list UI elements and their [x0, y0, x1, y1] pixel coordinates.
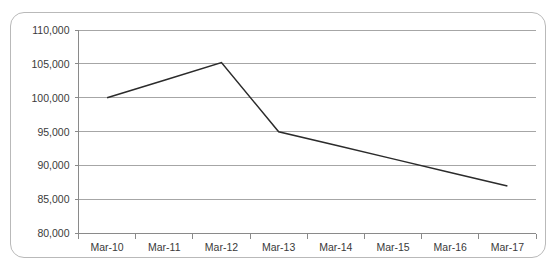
- y-axis-tick-label: 105,000: [32, 58, 70, 70]
- y-axis-tick-label: 85,000: [37, 193, 69, 205]
- x-axis-tick-labels: Mar-10Mar-11Mar-12Mar-13Mar-14Mar-15Mar-…: [90, 241, 524, 253]
- y-axis-tick-label: 80,000: [37, 227, 69, 239]
- y-axis-tick-label: 110,000: [32, 24, 69, 36]
- x-axis-tick-label: Mar-16: [434, 241, 467, 253]
- y-axis-tick-label: 90,000: [37, 159, 69, 171]
- x-axis-tick-label: Mar-13: [262, 241, 295, 253]
- x-axis-tickmarks: [79, 234, 537, 239]
- line-chart-figure: 80,00085,00090,00095,000100,000105,00011…: [0, 0, 557, 271]
- x-axis-tick-label: Mar-12: [205, 241, 238, 253]
- chart-plot-svg: 80,00085,00090,00095,000100,000105,00011…: [0, 0, 557, 271]
- x-axis-tick-label: Mar-15: [376, 241, 409, 253]
- y-axis-tick-labels: 80,00085,00090,00095,000100,000105,00011…: [32, 24, 70, 240]
- y-gridlines: [79, 30, 537, 200]
- data-series-line: [107, 63, 507, 186]
- x-axis-tick-label: Mar-14: [319, 241, 352, 253]
- x-axis-tick-label: Mar-11: [148, 241, 181, 253]
- x-axis-tick-label: Mar-10: [90, 241, 123, 253]
- y-axis-tick-label: 100,000: [32, 92, 70, 104]
- x-axis-tick-label: Mar-17: [491, 241, 524, 253]
- y-axis-tick-label: 95,000: [37, 126, 69, 138]
